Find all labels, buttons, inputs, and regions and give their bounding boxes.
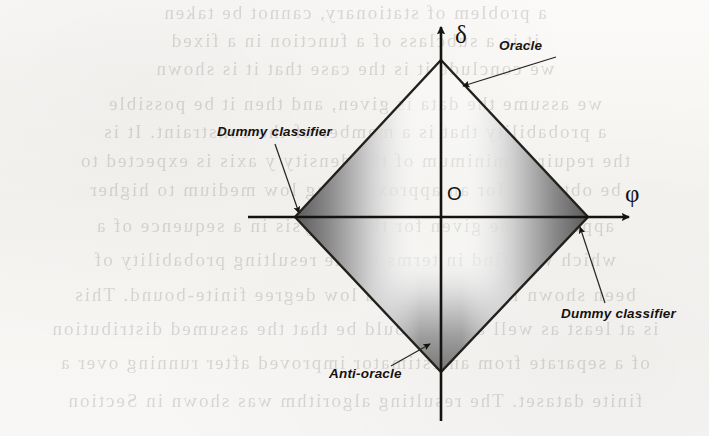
leader-line-dummy-right [580, 227, 605, 303]
callout-label-anti-oracle: Anti-oracle [329, 366, 402, 381]
callout-label-dummy-classifier-left: Dummy classifier [217, 124, 332, 139]
phi-axis-label: φ [625, 180, 639, 208]
leader-line-oracle [463, 57, 556, 86]
figure-container: a problem of stationary, cannot be taken… [0, 0, 709, 436]
callout-label-dummy-classifier-right: Dummy classifier [561, 306, 676, 321]
leader-line-dummy-left [275, 144, 299, 213]
origin-label: O [447, 183, 462, 205]
delta-axis-label: δ [455, 21, 467, 49]
callout-label-oracle: Oracle [499, 38, 542, 53]
